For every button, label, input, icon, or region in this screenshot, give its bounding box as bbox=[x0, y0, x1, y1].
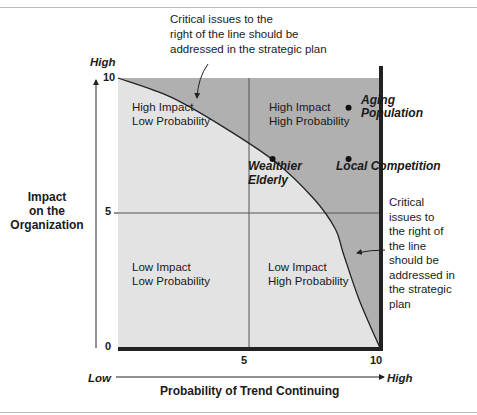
y-axis-title: Impact on the Organization bbox=[8, 190, 86, 232]
x-axis-title: Probability of Trend Continuing bbox=[160, 384, 339, 398]
x-tick-5: 5 bbox=[241, 354, 247, 366]
point-label-aging-population: Aging Population bbox=[361, 94, 423, 120]
quadrant-label-line1: Low Impact bbox=[132, 260, 210, 274]
y-tick-5: 5 bbox=[105, 205, 111, 217]
point-label-line2: Elderly bbox=[248, 173, 302, 187]
x-axis-low-label: Low bbox=[88, 371, 111, 385]
annotation-line: the line bbox=[389, 239, 455, 254]
annotation-line: Critical issues to the bbox=[170, 12, 327, 27]
annotation-line: Critical bbox=[389, 195, 455, 210]
x-axis-high-label: High bbox=[387, 371, 413, 385]
annotation-line: should be bbox=[389, 253, 455, 268]
y-tick-10: 10 bbox=[103, 71, 115, 83]
annotation-line: right of the line should be bbox=[170, 27, 327, 42]
annotation-line: plan bbox=[389, 297, 455, 312]
y-axis-title-line2: on the bbox=[8, 204, 86, 218]
y-axis-title-line1: Impact bbox=[8, 190, 86, 204]
annotation-line: the strategic bbox=[389, 282, 455, 297]
quadrant-label-high-impact-low-probability: High Impact Low Probability bbox=[132, 100, 210, 128]
point-label-wealthier-elderly: Wealthier Elderly bbox=[248, 159, 302, 187]
y-axis-title-line3: Organization bbox=[8, 218, 86, 232]
quadrant-label-line2: Low Probability bbox=[132, 114, 210, 128]
quadrant-label-line1: High Impact bbox=[269, 100, 350, 114]
annotation-line: the right of bbox=[389, 224, 455, 239]
point-label-local-competition: Local Competition bbox=[336, 159, 441, 173]
annotation-line: addressed in bbox=[389, 268, 455, 283]
point-label-line1: Wealthier bbox=[248, 159, 302, 173]
quadrant-label-line2: High Probability bbox=[268, 274, 349, 288]
quadrant-label-low-impact-high-probability: Low Impact High Probability bbox=[268, 260, 349, 288]
annotation-top: Critical issues to the right of the line… bbox=[170, 12, 327, 57]
annotation-line: addressed in the strategic plan bbox=[170, 42, 327, 57]
annotation-right: Critical issues to the right of the line… bbox=[389, 195, 455, 311]
quadrant-label-low-impact-low-probability: Low Impact Low Probability bbox=[132, 260, 210, 288]
y-tick-0: 0 bbox=[105, 340, 111, 352]
quadrant-label-line2: High Probability bbox=[269, 114, 350, 128]
quadrant-label-line1: High Impact bbox=[132, 100, 210, 114]
quadrant-label-high-impact-high-probability: High Impact High Probability bbox=[269, 100, 350, 128]
point-label-line2: Population bbox=[361, 107, 423, 120]
x-tick-10: 10 bbox=[370, 354, 382, 366]
quadrant-label-line2: Low Probability bbox=[132, 274, 210, 288]
y-axis-high-label: High bbox=[90, 55, 116, 69]
quadrant-label-line1: Low Impact bbox=[268, 260, 349, 274]
annotation-line: issues to bbox=[389, 210, 455, 225]
